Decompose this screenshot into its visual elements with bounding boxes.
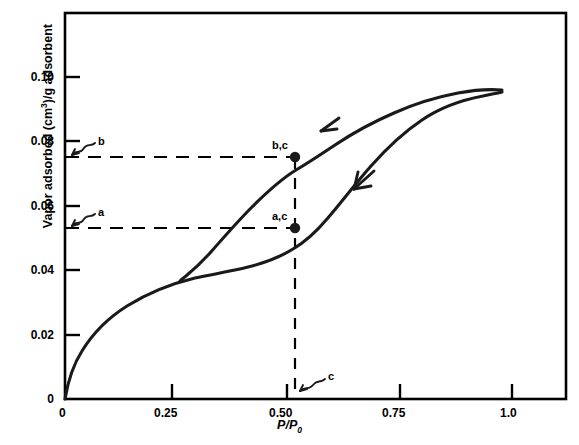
x-axis-label: P/P0: [0, 418, 579, 435]
annotation-label-a: a: [98, 206, 104, 218]
y-axis-ticks: [65, 77, 80, 335]
ytick-label-0-04: 0.04: [6, 263, 54, 277]
x-axis-label-numerator: P: [277, 418, 285, 432]
annotation-label-b: b: [98, 135, 105, 147]
annotation-label-c: c: [328, 370, 334, 382]
plot-canvas: [0, 0, 579, 445]
marker-label-ac: a,c: [272, 210, 287, 222]
x-axis-ticks: [172, 384, 512, 399]
annotation-arrow-a: [72, 214, 95, 226]
desorption-direction-arrow: [321, 118, 339, 131]
plot-frame: [65, 13, 566, 399]
ytick-label-0-10: 0.10: [6, 70, 54, 84]
annotation-arrow-b: [72, 143, 95, 155]
ytick-label-0-08: 0.08: [6, 134, 54, 148]
ytick-label-0-06: 0.06: [6, 199, 54, 213]
y-axis-label-superscript: 3: [39, 103, 49, 108]
x-axis-label-subscript: 0: [297, 425, 302, 435]
ytick-label-0-02: 0.02: [6, 328, 54, 342]
marker-label-bc: b,c: [272, 139, 288, 151]
x-axis-label-denominator: P: [289, 418, 297, 432]
y-axis-label-post: )/g adsorbent: [41, 24, 55, 103]
ytick-label-0: 0: [6, 392, 54, 406]
marker-bc: [290, 152, 300, 162]
y-axis-label: Vapor adsorbed (cm3)/g adsorbent: [39, 1, 55, 251]
isotherm-figure: Vapor adsorbed (cm3)/g adsorbent 0.10 0.…: [0, 0, 579, 445]
marker-ac: [290, 223, 300, 233]
desorption-curve: [180, 90, 502, 281]
annotation-arrow-c: [300, 379, 325, 391]
